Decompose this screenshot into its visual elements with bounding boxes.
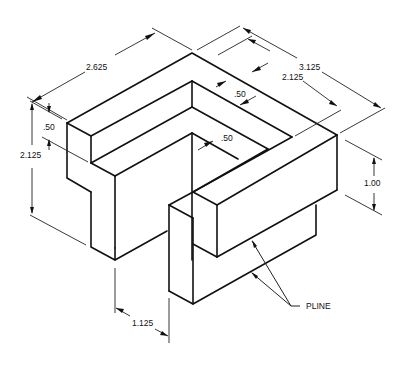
inner-rim-left-2 bbox=[115, 133, 192, 176]
dim-label-1125: 1.125 bbox=[132, 318, 154, 328]
dim-label-2125-inner: 2.125 bbox=[282, 72, 304, 82]
dim-label-050-left: .50 bbox=[43, 122, 55, 132]
lower-block-top bbox=[169, 192, 193, 205]
front-left-block-bottom bbox=[91, 192, 167, 260]
object-edges bbox=[67, 53, 337, 304]
left-end-top bbox=[67, 81, 192, 136]
outer-top-left-edge bbox=[67, 53, 337, 135]
lower-block-base bbox=[169, 205, 316, 304]
dim-label-050-top: .50 bbox=[234, 89, 246, 99]
dim-label-050-inner: .50 bbox=[221, 133, 233, 143]
inner-rim-left bbox=[91, 107, 192, 163]
dim-label-2625: 2.625 bbox=[86, 62, 108, 72]
dim-label-3125: 3.125 bbox=[299, 62, 321, 72]
inner-step-left bbox=[91, 163, 115, 176]
right-end-bottom bbox=[217, 190, 337, 257]
isometric-drawing: 2.625 3.125 2.125 .50 .50 .50 2.125 1.00… bbox=[0, 0, 413, 366]
lower-block-top-2 bbox=[169, 205, 193, 218]
right-end-bottom-step bbox=[193, 244, 217, 257]
dim-label-100: 1.00 bbox=[364, 178, 381, 188]
dim-label-2125-height: 2.125 bbox=[20, 150, 42, 160]
pline-label: PLINE bbox=[306, 301, 331, 311]
